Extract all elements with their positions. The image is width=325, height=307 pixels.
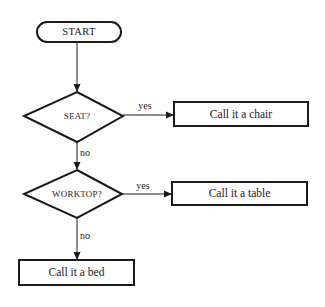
worktop-yes-label: yes (134, 180, 152, 192)
bed-label: Call it a bed (19, 264, 134, 280)
seat-yes-label: yes (136, 100, 154, 112)
worktop-label: WORKTOP? (32, 188, 122, 200)
flowchart-canvas: START SEAT? WORKTOP? Call it a chair Cal… (0, 0, 325, 307)
start-label: START (37, 25, 121, 39)
table-label: Call it a table (172, 185, 307, 201)
seat-no-label: no (80, 147, 94, 159)
worktop-no-label: no (80, 230, 94, 242)
chair-label: Call it a chair (174, 106, 308, 122)
flowchart-svg (0, 0, 325, 307)
seat-label: SEAT? (37, 110, 117, 122)
